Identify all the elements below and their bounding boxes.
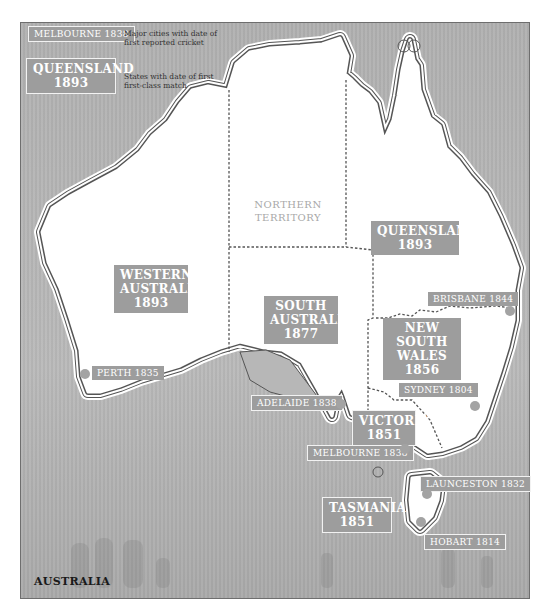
state-name-line2: AUSTRALIA	[270, 313, 332, 327]
city-dot-melbourne	[400, 444, 410, 454]
territory-line2: TERRITORY	[248, 211, 328, 224]
state-name-line1: TASMANIA	[329, 501, 385, 515]
city-dot-launceston	[422, 489, 432, 499]
city-dot-hobart	[416, 517, 426, 527]
legend-state-name: QUEENSLAND	[33, 62, 109, 76]
state-name-line1: WESTERN	[120, 268, 182, 282]
legend-state-sample: QUEENSLAND 1893	[26, 58, 116, 94]
state-label-tasmania: TASMANIA 1851	[322, 497, 392, 533]
state-name-line2: AUSTRALIA	[120, 282, 182, 296]
city-dot-brisbane	[505, 306, 515, 316]
city-label-sydney: SYDNEY 1804	[399, 383, 478, 397]
city-dot-perth	[80, 369, 90, 379]
state-year: 1877	[270, 327, 332, 341]
city-label-perth: PERTH 1835	[92, 366, 164, 380]
state-year: 1851	[329, 515, 385, 529]
country-label: AUSTRALIA	[34, 575, 110, 588]
legend-state-description: States with date of first first-class ma…	[124, 72, 214, 90]
state-name-line1: NEW SOUTH	[389, 321, 455, 349]
legend-city-sample: MELBOURNE 1838	[28, 26, 135, 42]
territory-line1: NORTHERN	[248, 198, 328, 211]
legend-state-year: 1893	[33, 76, 109, 90]
state-year: 1893	[120, 296, 182, 310]
state-name-line1: SOUTH	[270, 299, 332, 313]
state-name-line2: WALES	[389, 349, 455, 363]
state-year: 1851	[359, 428, 409, 442]
city-label-melbourne: MELBOURNE 1838	[307, 445, 414, 461]
state-label-western-australia: WESTERN AUSTRALIA 1893	[114, 265, 188, 313]
city-dot-sydney	[470, 401, 480, 411]
city-label-adelaide: ADELAIDE 1838	[251, 395, 343, 411]
legend-city-description: Major cities with date of first reported…	[124, 29, 217, 47]
state-year: 1893	[377, 238, 453, 252]
state-label-new-south-wales: NEW SOUTH WALES 1856	[383, 318, 461, 380]
state-label-south-australia: SOUTH AUSTRALIA 1877	[264, 296, 338, 344]
legend-city-desc-line1: Major cities with date of	[124, 29, 217, 38]
state-year: 1856	[389, 363, 455, 377]
state-label-victoria: VICTORIA 1851	[352, 410, 416, 446]
city-dot-adelaide	[336, 399, 346, 409]
city-label-hobart: HOBART 1814	[424, 534, 506, 550]
city-label-launceston: LAUNCESTON 1832	[420, 476, 531, 492]
legend-city-desc-line2: first reported cricket	[124, 38, 217, 47]
legend-state-desc-line2: first-class match	[124, 81, 214, 90]
state-label-queensland: QUEENSLAND 1893	[371, 221, 459, 255]
territory-label-northern-territory: NORTHERN TERRITORY	[248, 198, 328, 224]
state-name-line1: QUEENSLAND	[377, 224, 453, 238]
state-name-line1: VICTORIA	[359, 414, 409, 428]
city-label-brisbane: BRISBANE 1844	[428, 292, 518, 306]
legend-state-desc-line1: States with date of first	[124, 72, 214, 81]
